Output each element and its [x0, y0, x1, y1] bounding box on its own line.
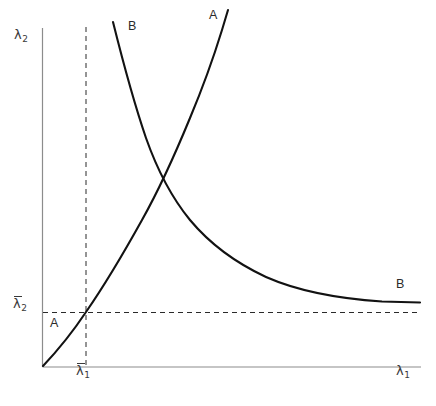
y-axis-label-sub: 2 [22, 34, 28, 44]
y-axis-tick-label: λ2 [13, 297, 27, 313]
x-tick-label-base: λ [76, 363, 84, 378]
y-tick-label-base: λ [13, 296, 21, 311]
x-axis-label-base: λ [396, 363, 404, 378]
x-axis-label-sub: 1 [404, 370, 410, 380]
x-axis-tick-label: λ1 [76, 364, 90, 380]
curve-label-b-top: B [128, 20, 136, 33]
y-tick-label-sub: 2 [21, 303, 27, 313]
x-axis-label: λ1 [396, 364, 410, 380]
figure-canvas: λ2 λ1 λ2 λ1 B A B A [0, 0, 436, 406]
y-axis-label-base: λ [14, 27, 22, 42]
plot-svg [0, 0, 436, 406]
curve-label-a-top: A [209, 9, 217, 22]
curve-label-a-origin: A [50, 317, 58, 330]
x-tick-overbar [77, 363, 85, 364]
y-axis-label: λ2 [14, 28, 28, 44]
curve-b-path [113, 22, 420, 303]
x-tick-label-sub: 1 [84, 370, 90, 380]
curve-label-b-right: B [396, 278, 404, 291]
y-tick-overbar [14, 296, 22, 297]
